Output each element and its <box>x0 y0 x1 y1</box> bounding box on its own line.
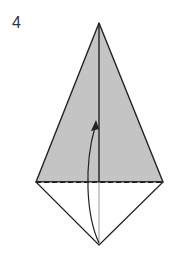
white-flap <box>36 182 163 245</box>
origami-diagram <box>0 0 171 258</box>
